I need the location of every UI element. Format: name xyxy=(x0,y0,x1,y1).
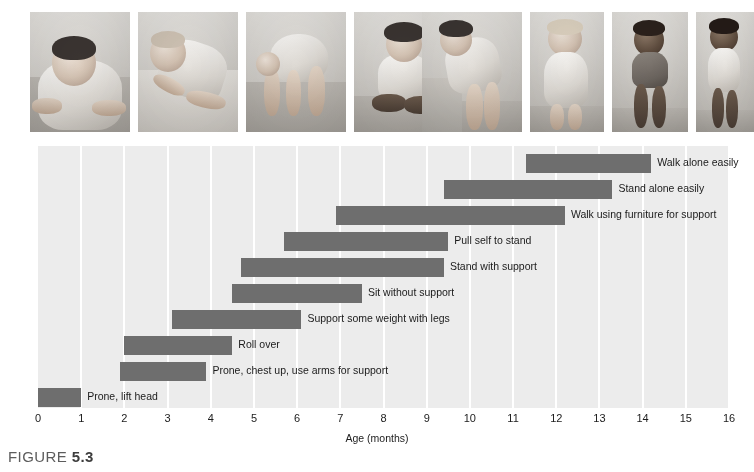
bar-row[interactable]: Stand alone easily xyxy=(38,180,729,206)
x-tick-3: 3 xyxy=(156,412,180,424)
x-tick-5: 5 xyxy=(242,412,266,424)
photo-baby-pulling-to-stand xyxy=(422,12,522,132)
x-tick-10: 10 xyxy=(458,412,482,424)
photo-baby-walking-alone xyxy=(696,12,754,132)
bar-row[interactable]: Walk using furniture for support xyxy=(38,206,729,232)
x-tick-1: 1 xyxy=(69,412,93,424)
photo-baby-rolling-over xyxy=(138,12,238,132)
x-tick-7: 7 xyxy=(328,412,352,424)
bar-label: Walk using furniture for support xyxy=(571,208,717,220)
x-tick-4: 4 xyxy=(199,412,223,424)
bar[interactable] xyxy=(241,258,444,277)
bar[interactable] xyxy=(526,154,651,173)
bar[interactable] xyxy=(284,232,448,251)
bar-row[interactable]: Roll over xyxy=(38,336,729,362)
x-tick-14: 14 xyxy=(631,412,655,424)
photo-baby-standing-with-support xyxy=(530,12,604,132)
bar-row[interactable]: Pull self to stand xyxy=(38,232,729,258)
bar-label: Stand with support xyxy=(450,260,537,272)
x-tick-16: 16 xyxy=(717,412,741,424)
bar[interactable] xyxy=(232,284,362,303)
bar-label: Walk alone easily xyxy=(657,156,738,168)
bar-row[interactable]: Prone, lift head xyxy=(38,388,729,414)
photo-baby-crawling xyxy=(246,12,346,132)
bar-row[interactable]: Stand with support xyxy=(38,258,729,284)
photo-baby-prone-lifting-head xyxy=(30,12,130,132)
figure-5-3: Walk alone easilyStand alone easilyWalk … xyxy=(0,0,754,472)
photo-strip xyxy=(0,0,754,140)
bar[interactable] xyxy=(38,388,81,407)
bar-label: Support some weight with legs xyxy=(307,312,449,324)
bar-row[interactable]: Prone, chest up, use arms for support xyxy=(38,362,729,388)
bar-label: Pull self to stand xyxy=(454,234,531,246)
bar[interactable] xyxy=(444,180,612,199)
x-tick-0: 0 xyxy=(26,412,50,424)
x-tick-8: 8 xyxy=(372,412,396,424)
bar-label: Prone, lift head xyxy=(87,390,158,402)
figure-caption: FIGURE 5.3 xyxy=(8,448,94,465)
bars-layer: Walk alone easilyStand alone easilyWalk … xyxy=(38,146,729,408)
x-tick-13: 13 xyxy=(587,412,611,424)
bar-label: Sit without support xyxy=(368,286,454,298)
x-tick-9: 9 xyxy=(415,412,439,424)
bar-label: Roll over xyxy=(238,338,279,350)
bar[interactable] xyxy=(120,362,206,381)
bar-row[interactable]: Walk alone easily xyxy=(38,154,729,180)
bar-row[interactable]: Support some weight with legs xyxy=(38,310,729,336)
bar[interactable] xyxy=(172,310,302,329)
x-axis-title: Age (months) xyxy=(0,432,754,444)
photo-baby-walking-with-help xyxy=(612,12,688,132)
x-tick-12: 12 xyxy=(544,412,568,424)
bar-label: Prone, chest up, use arms for support xyxy=(212,364,388,376)
bar[interactable] xyxy=(336,206,565,225)
caption-number: 5.3 xyxy=(72,448,94,465)
x-tick-6: 6 xyxy=(285,412,309,424)
caption-prefix: FIGURE xyxy=(8,448,67,465)
bar-row[interactable]: Sit without support xyxy=(38,284,729,310)
x-tick-11: 11 xyxy=(501,412,525,424)
bar[interactable] xyxy=(124,336,232,355)
x-tick-2: 2 xyxy=(112,412,136,424)
x-tick-15: 15 xyxy=(674,412,698,424)
chart-plot-area: Walk alone easilyStand alone easilyWalk … xyxy=(38,146,729,408)
bar-label: Stand alone easily xyxy=(618,182,704,194)
